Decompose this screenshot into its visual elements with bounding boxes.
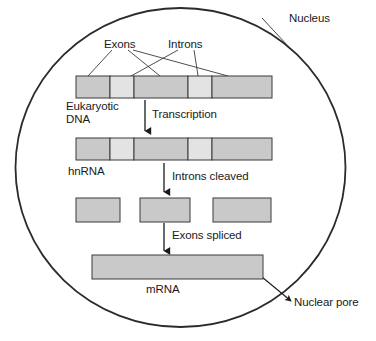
hnrna-intron-2 bbox=[188, 138, 212, 160]
molecule-hnrna bbox=[76, 138, 272, 160]
exons-label: Exons bbox=[104, 38, 135, 51]
dna-exon-2 bbox=[134, 76, 188, 98]
molecule-cleaved-exons bbox=[76, 198, 271, 222]
dna-exon-1 bbox=[76, 76, 110, 98]
nuclear-pore-label: Nuclear pore bbox=[294, 296, 359, 309]
dna-intron-1 bbox=[110, 76, 134, 98]
hnrna-exon-2 bbox=[134, 138, 188, 160]
process-arrows bbox=[145, 100, 164, 251]
dna-exon-3 bbox=[212, 76, 272, 98]
hnrna-exon-1 bbox=[76, 138, 110, 160]
nucleus-label: Nucleus bbox=[289, 12, 330, 25]
introns-label: Introns bbox=[168, 38, 202, 51]
introns-cleaved-label: Introns cleaved bbox=[172, 170, 249, 183]
hnrna-label: hnRNA bbox=[68, 165, 105, 178]
hnrna-exon-3 bbox=[212, 138, 272, 160]
cleaved-exon-3 bbox=[213, 198, 271, 222]
molecule-mrna bbox=[92, 255, 263, 279]
transcription-label: Transcription bbox=[152, 108, 217, 121]
splicing-diagram: Nucleus Exons Introns Eukaryotic DNA Tra… bbox=[0, 0, 376, 341]
hnrna-intron-1 bbox=[110, 138, 134, 160]
mrna-bar bbox=[92, 255, 263, 279]
exons-spliced-label: Exons spliced bbox=[172, 229, 242, 242]
dna-intron-2 bbox=[188, 76, 212, 98]
cleaved-exon-1 bbox=[76, 198, 120, 222]
eukaryotic-dna-label: Eukaryotic DNA bbox=[66, 100, 119, 125]
cleaved-exon-2 bbox=[140, 198, 190, 222]
molecule-eukaryotic-dna bbox=[76, 76, 272, 98]
mrna-label: mRNA bbox=[146, 283, 179, 296]
